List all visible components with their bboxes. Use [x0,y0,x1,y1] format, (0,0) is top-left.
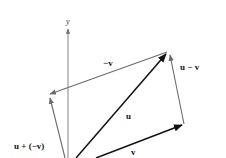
vector-v: v [96,125,182,158]
u-label: u [126,111,131,121]
y-axis-label: y [65,17,70,26]
vector-u-minus-v: u − v [170,55,200,124]
u-minus-v-label: u − v [180,62,200,72]
vector-diagram: y −v u + (−v) u − v u v [0,0,226,158]
neg-v-label: −v [103,58,113,68]
u-plus-neg-v-label: u + (−v) [14,141,44,151]
vector-u-plus-neg-v: u + (−v) [14,98,65,158]
v-label: v [131,147,136,157]
vector-u: u [76,54,166,158]
